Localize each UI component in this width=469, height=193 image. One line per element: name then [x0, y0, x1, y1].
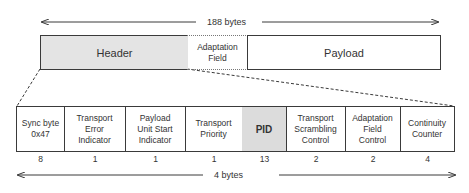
- field-label: Adaptation Field Control: [352, 113, 393, 146]
- field-pid: PID: [242, 106, 287, 152]
- packet-length-label: 188 bytes: [203, 17, 250, 27]
- field-transport-priority: Transport Priority: [185, 106, 243, 152]
- field-transport-scrambling-control: Transport Scrambling Control: [286, 106, 346, 152]
- adaptation-field-segment: Adaptation Field: [187, 35, 248, 70]
- bits-transport-error-indicator: 1: [64, 154, 126, 164]
- field-label: PID: [256, 124, 273, 135]
- bits-transport-priority: 1: [185, 154, 243, 164]
- field-label: Transport Error Indicator: [76, 113, 112, 146]
- payload-segment-label: Payload: [324, 47, 364, 59]
- field-label: Transport Scrambling Control: [294, 113, 337, 146]
- bits-transport-scrambling-control: 2: [286, 154, 346, 164]
- field-transport-error-indicator: Transport Error Indicator: [64, 106, 126, 152]
- bits-sync-byte: 8: [16, 154, 65, 164]
- field-adaptation-field-control: Adaptation Field Control: [345, 106, 401, 152]
- bits-adaptation-field-control: 2: [345, 154, 401, 164]
- header-length-label: 4 bytes: [210, 170, 247, 180]
- payload-segment: Payload: [247, 35, 441, 70]
- field-sync-byte: Sync byte 0x47: [16, 106, 65, 152]
- header-segment: Header: [40, 35, 188, 70]
- header-segment-label: Header: [96, 47, 132, 59]
- bits-pid: 13: [242, 154, 287, 164]
- bits-payload-unit-start-indicator: 1: [125, 154, 186, 164]
- adaptation-field-label: Adaptation Field: [197, 42, 238, 64]
- field-label: Payload Unit Start Indicator: [137, 113, 172, 146]
- field-label: Transport Priority: [195, 118, 231, 140]
- zoom-connector-lines: [17, 69, 454, 106]
- field-continuity-counter: Continuity Counter: [400, 106, 455, 152]
- bits-continuity-counter: 4: [400, 154, 455, 164]
- field-payload-unit-start-indicator: Payload Unit Start Indicator: [125, 106, 186, 152]
- field-label: Continuity Counter: [408, 118, 446, 140]
- field-label: Sync byte 0x47: [22, 118, 59, 140]
- diagram-lines: [0, 0, 469, 193]
